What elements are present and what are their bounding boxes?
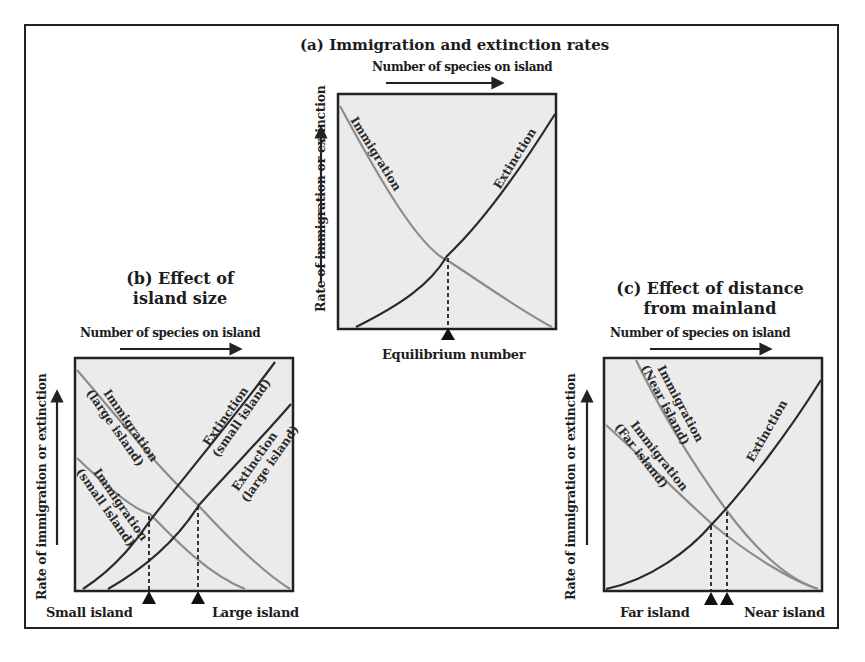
panel-c-plot-area (604, 358, 822, 591)
panel-c-near-marker-icon (720, 592, 734, 605)
panel-c: Immigration (Near island) Immigration (F… (587, 349, 822, 605)
panel-b: Immigration (large island) Immigration (… (57, 349, 302, 604)
panel-a: Immigration Extinction (321, 83, 556, 340)
panel-a-plot-area (338, 94, 556, 329)
panel-c-far-marker-icon (704, 592, 718, 605)
panel-b-small-marker-icon (142, 591, 156, 604)
panel-b-large-marker-icon (191, 591, 205, 604)
diagram-graphics: Immigration Extinction Immigration (larg… (0, 0, 865, 662)
